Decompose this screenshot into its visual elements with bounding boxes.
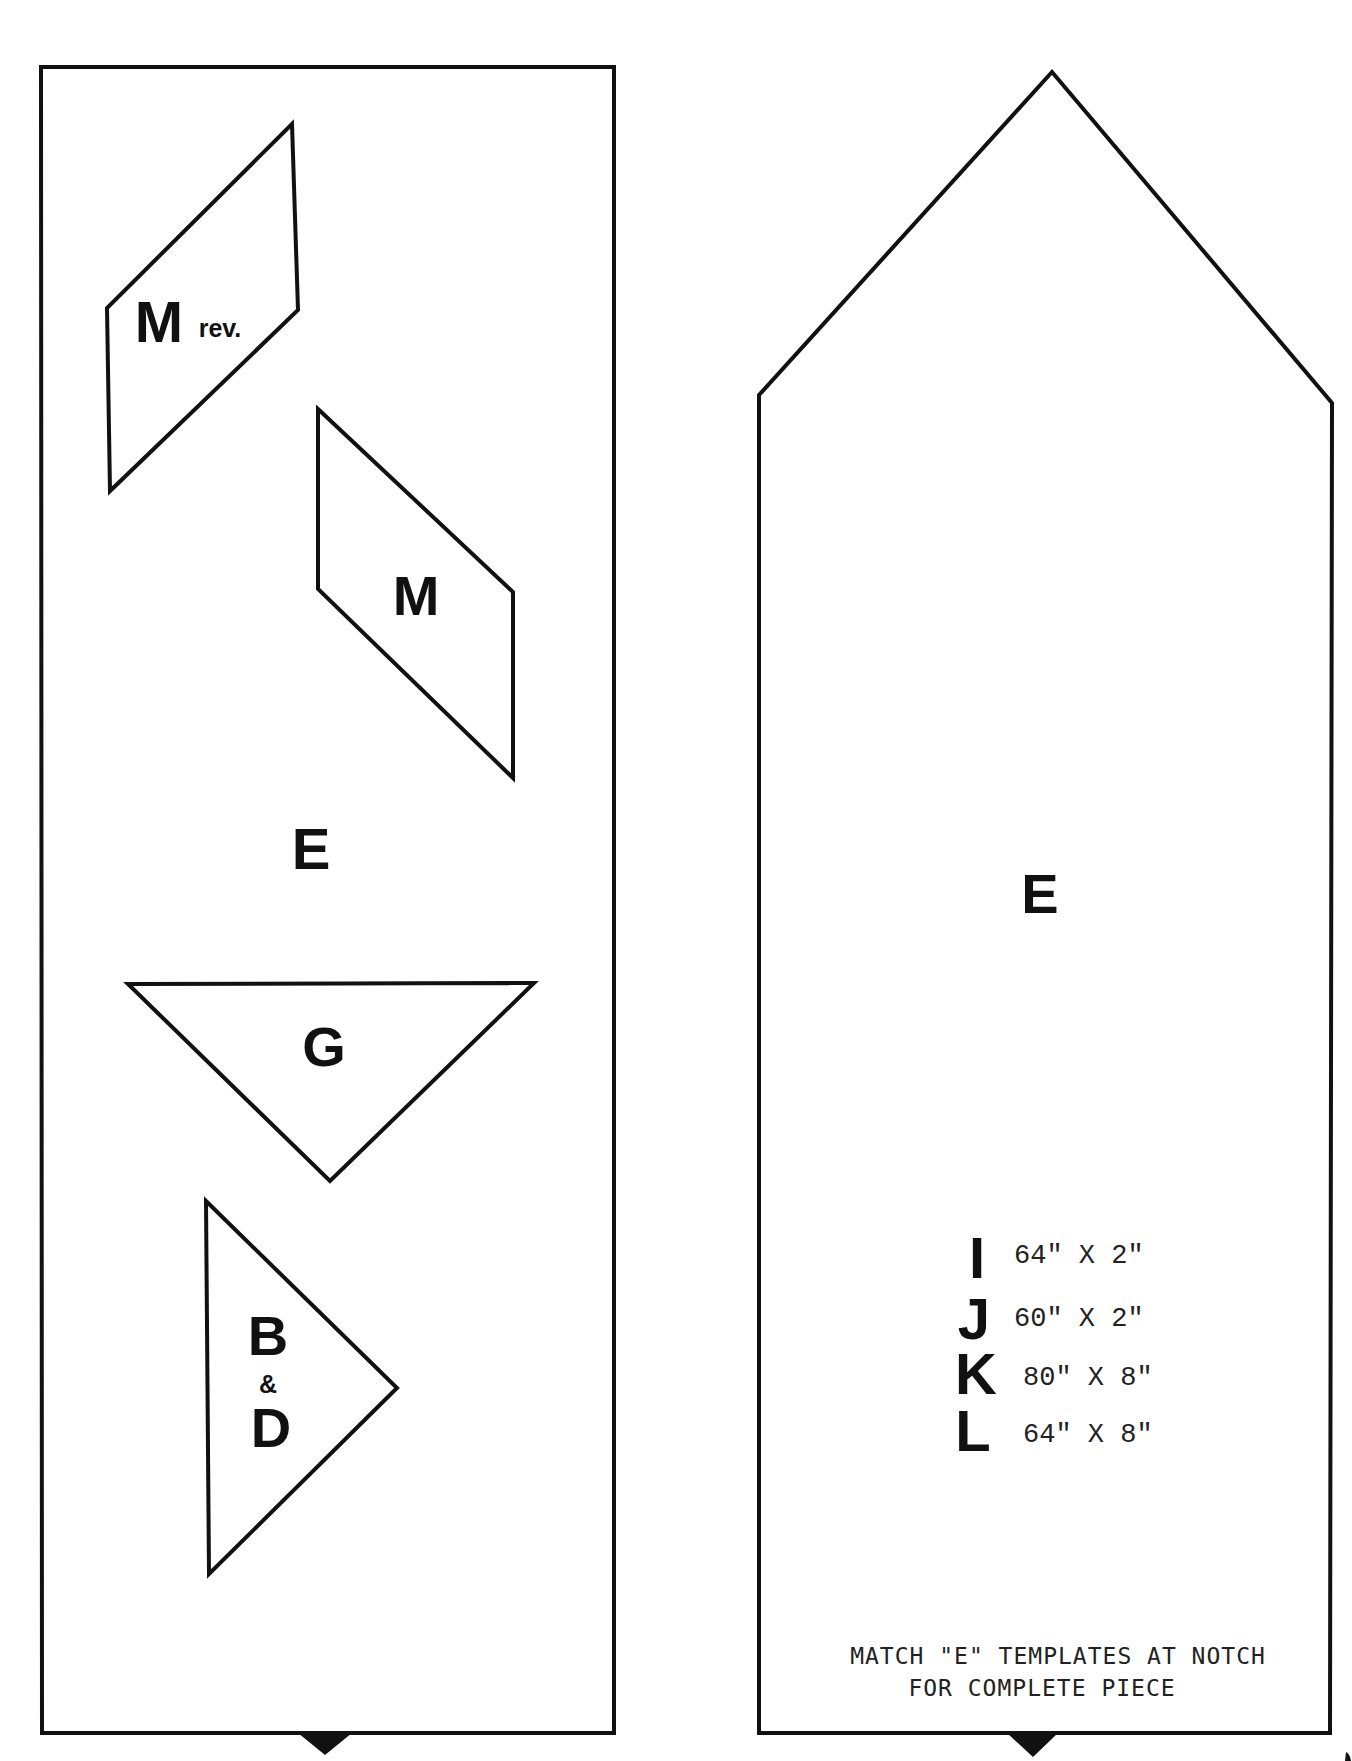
left-notch-marker [298, 1733, 352, 1755]
strip-j-letter: J [958, 1290, 990, 1348]
ampersand: & [259, 1372, 277, 1397]
m-rev-letter: M [135, 293, 183, 351]
g-letter: G [302, 1019, 346, 1075]
strip-k-size: 80" X 8" [1023, 1365, 1153, 1392]
strip-i-size: 64" X 2" [1014, 1243, 1144, 1270]
strip-l-size: 64" X 8" [1023, 1422, 1153, 1449]
d-letter: D [251, 1400, 291, 1456]
m-letter: M [393, 568, 440, 624]
strip-j-size: 60" X 2" [1014, 1306, 1144, 1333]
g-piece-outline [128, 983, 534, 1181]
right-template-label: E [1021, 866, 1058, 922]
m-rev-suffix: rev. [199, 316, 242, 341]
b-d-piece-outline [206, 1201, 397, 1574]
pattern-drawing [0, 0, 1352, 1761]
left-template-label: E [292, 820, 331, 878]
b-letter: B [248, 1308, 288, 1364]
corner-mark [1345, 1752, 1351, 1761]
notch-note-line2: FOR COMPLETE PIECE [908, 1677, 1175, 1700]
notch-note-line1: MATCH "E" TEMPLATES AT NOTCH [850, 1645, 1266, 1668]
strip-i-letter: I [969, 1229, 985, 1287]
strip-l-letter: L [955, 1402, 990, 1460]
left-template-outline [41, 67, 614, 1733]
right-notch-marker [1007, 1733, 1058, 1757]
strip-k-letter: K [955, 1345, 997, 1403]
